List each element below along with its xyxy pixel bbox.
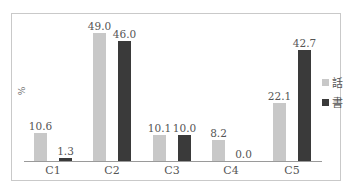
legend-label: 話 (332, 74, 343, 90)
legend-swatch-dark (322, 99, 329, 106)
value-label: 10.0 (170, 123, 200, 134)
bar-c5-hanashi (273, 103, 286, 161)
x-axis-line (24, 161, 322, 162)
bar-c3-hanashi (153, 135, 166, 161)
value-label: 46.0 (110, 29, 140, 40)
bar-c5-kaku (298, 50, 311, 161)
legend-label: 書 (332, 94, 343, 110)
category-label: C5 (277, 164, 307, 177)
bar-c1-hanashi (34, 133, 47, 161)
bar-c2-kaku (118, 41, 131, 161)
y-axis-label: % (17, 87, 27, 96)
bar-c3-kaku (178, 135, 191, 161)
category-label: C4 (216, 164, 246, 177)
category-label: C3 (157, 164, 187, 177)
category-label: C1 (38, 164, 68, 177)
value-label: 0.0 (229, 149, 259, 160)
category-label: C2 (97, 164, 127, 177)
legend-item-hanashi: 話 (322, 74, 343, 90)
value-label: 8.2 (204, 128, 234, 139)
value-label: 42.7 (290, 38, 320, 49)
bar-c2-hanashi (93, 33, 106, 161)
value-label: 1.3 (51, 146, 81, 157)
bar-c1-kaku (59, 158, 72, 161)
legend-item-kaku: 書 (322, 94, 343, 110)
value-label: 22.1 (265, 91, 295, 102)
value-label: 10.6 (26, 121, 56, 132)
bar-c4-hanashi (212, 140, 225, 161)
legend-swatch-light (322, 79, 329, 86)
